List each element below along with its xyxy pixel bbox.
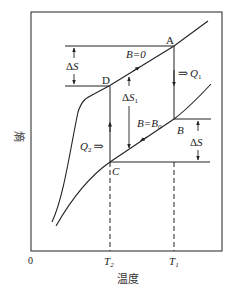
point-a-label: A — [166, 34, 174, 46]
curve-b-b0 — [56, 84, 211, 226]
delta-s-right-label: ΔS — [190, 136, 203, 148]
origin-label: 0 — [28, 255, 33, 266]
delta-s1-label: ΔS1 — [122, 91, 139, 105]
q1-arrow-icon: ⇒ — [178, 66, 188, 80]
point-d-label: D — [102, 74, 110, 86]
delta-s-top-label: ΔS — [66, 60, 79, 72]
q2-heat-label: Q2⇒ — [80, 139, 104, 154]
x-tick-t2: T2 — [104, 255, 114, 269]
y-axis-label: 熵 — [12, 131, 26, 142]
curve-arrow-lower — [142, 137, 147, 140]
curve-label-b-zero: B=0 — [126, 48, 146, 60]
curve-label-b-b0: B=B0 — [137, 117, 162, 131]
curve-arrow-upper — [133, 68, 138, 71]
point-c-label: C — [112, 165, 120, 177]
q2-arrow-icon: ⇒ — [93, 139, 103, 153]
entropy-temperature-diagram: A D B C B=0 B=B0 ΔS ΔS1 ΔS ⇒Q1 Q2⇒ 0 T2 … — [0, 0, 233, 288]
x-tick-t1: T1 — [169, 255, 179, 269]
q1-heat-label: ⇒Q1 — [178, 66, 202, 81]
point-b-label: B — [177, 124, 184, 136]
x-axis-label: 温度 — [117, 272, 139, 286]
